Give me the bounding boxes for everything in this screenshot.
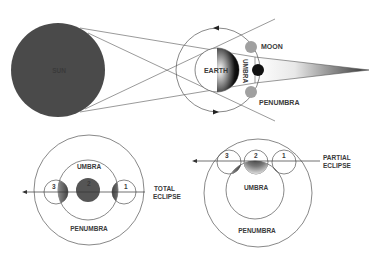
umbra-label-top: UMBRA (242, 59, 249, 83)
total-eclipse-caption-2: ECLIPSE (153, 193, 181, 200)
orbit-arrow-bottom-icon (213, 110, 219, 115)
position-1-label: 1 (282, 152, 286, 159)
umbra-label-partial: UMBRA (244, 184, 268, 191)
position-3-label: 3 (225, 152, 229, 159)
penumbra-label-total: PENUMBRA (70, 225, 108, 232)
penumbra-label-partial: PENUMBRA (238, 227, 276, 234)
total-eclipse-diagram: 3 2 1 UMBRA PENUMBRA TOTAL ECLIPSE (22, 135, 181, 245)
moon-penumbra-top (245, 41, 257, 53)
eclipse-diagram: EARTH UMBRA SUN MOON PENUMBRA 3 2 1 UMBR… (0, 0, 384, 257)
position-3-label: 3 (52, 183, 56, 190)
sun-label: SUN (52, 67, 66, 74)
position-1-label: 1 (124, 183, 128, 190)
sun-earth-moon-geometry: EARTH UMBRA SUN MOON PENUMBRA (11, 19, 369, 121)
path-arrow-partial-icon (192, 159, 197, 163)
position-2-label: 2 (254, 152, 258, 159)
total-eclipse-caption-1: TOTAL (154, 185, 175, 192)
partial-eclipse-caption-2: ECLIPSE (323, 162, 351, 169)
umbra-cone (255, 57, 369, 83)
path-arrow-total-icon (22, 190, 27, 194)
moon-in-umbra (252, 64, 264, 76)
orbit-arrow-top-icon (213, 26, 219, 31)
penumbra-label-top: PENUMBRA (259, 99, 299, 106)
earth-label: EARTH (204, 67, 228, 74)
partial-eclipse-caption-1: PARTIAL (323, 154, 351, 161)
moon-penumbra-bottom (245, 86, 257, 98)
umbra-label-total: UMBRA (77, 163, 101, 170)
partial-eclipse-diagram: 3 2 1 UMBRA PENUMBRA PARTIAL ECLIPSE (192, 139, 351, 247)
moon-label: MOON (261, 43, 283, 50)
position-2-label: 2 (87, 180, 91, 187)
